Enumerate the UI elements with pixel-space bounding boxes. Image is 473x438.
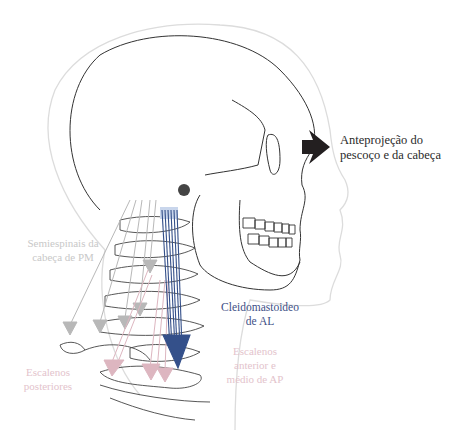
label-escalenos-posteriores: Escalenos posteriores — [8, 365, 88, 393]
teeth — [243, 218, 295, 247]
clavicle-shoulder — [100, 366, 210, 420]
label-semiespinais-line2: cabeça de PM — [8, 250, 118, 264]
mastoid-marker — [178, 184, 190, 196]
label-cleidomastoideo-line1: Cleidomastoideo — [205, 300, 315, 314]
label-anteprojecao-line1: Anteprojeção do — [340, 133, 441, 148]
label-escalenos-anterior-line3: médio de AP — [210, 372, 300, 386]
escalenos-arrows — [104, 270, 173, 382]
label-semiespinais-line1: Semiespinais da — [8, 236, 118, 250]
label-cleidomastoideo-line2: de AL — [205, 314, 315, 328]
semiespinais-arrows — [63, 200, 157, 335]
label-escalenos-anterior-line1: Escalenos — [210, 344, 300, 358]
label-escalenos-posteriores-line2: posteriores — [8, 379, 88, 393]
label-escalenos-anterior-line2: anterior e — [210, 358, 300, 372]
label-anteprojecao: Anteprojeção do pescoço e da cabeça — [340, 133, 441, 163]
label-semiespinais: Semiespinais da cabeça de PM — [8, 236, 118, 264]
temporal-line — [205, 100, 265, 175]
label-escalenos-anterior: Escalenos anterior e médio de AP — [210, 344, 300, 386]
skin-outline — [48, 24, 348, 430]
orbit — [266, 134, 280, 174]
label-anteprojecao-line2: pescoço e da cabeça — [340, 148, 441, 163]
label-escalenos-posteriores-line1: Escalenos — [8, 365, 88, 379]
label-cleidomastoideo: Cleidomastoideo de AL — [205, 300, 315, 328]
